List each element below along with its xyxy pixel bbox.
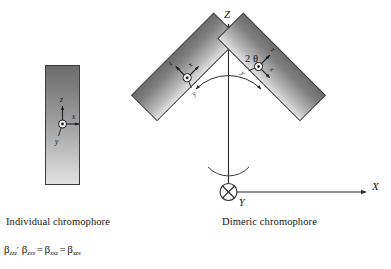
hyperpolarizability-formula: βzzz′βzxx=βxxz=βxzx [4,243,81,256]
dimeric-chromophore-group: Z X z x y [132,8,380,208]
individual-origin-center-icon [61,123,64,126]
chromophore-orientation-figure: z x y Z X [0,0,391,269]
global-z-label: Z [224,8,231,20]
dimeric-chromophore-caption: Dimeric chromophore [222,216,317,227]
individual-chromophore-group: z x y [46,66,80,185]
beta-term-4: βxzx [67,243,80,255]
individual-y-label: y [54,137,59,146]
equals-sign-2: = [58,243,67,255]
beta-term-1: βzzz′ [4,243,19,255]
beta-sub-1: zzz [10,249,17,256]
individual-chromophore-caption: Individual chromophore [6,216,110,227]
individual-z-label: z [59,95,63,104]
global-y-label: Y [239,197,246,208]
beta-sub-4: xzx [73,249,81,256]
angle-label: 2 θ [245,53,258,64]
global-x-label: X [371,180,380,192]
left-slab-group [132,13,239,120]
beta-sub-3: xxz [50,249,58,256]
left-y-label: y [189,89,198,98]
individual-x-label: x [71,112,76,121]
beta-term-2: βzxx [22,243,35,255]
figure-canvas: z x y Z X [0,0,391,269]
left-chromophore-slab [132,13,239,120]
beta-term-3: βxxz [44,243,57,255]
